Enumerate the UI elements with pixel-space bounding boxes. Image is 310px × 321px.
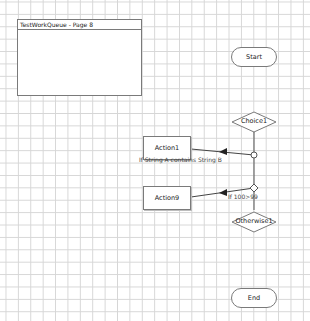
otherwise-node-label: Otherwise1: [229, 217, 279, 225]
diagram-canvas[interactable]: TestWorkQueue - Page 8 Start Choice1 Oth…: [0, 0, 310, 321]
branch-connector-dot[interactable]: [251, 152, 257, 158]
edge-label-action9: If 100>99: [228, 193, 258, 200]
action9-node[interactable]: Action9: [143, 186, 191, 210]
choice-node-label: Choice1: [234, 117, 274, 125]
end-node[interactable]: End: [231, 288, 277, 308]
branch-connector-diamond[interactable]: [250, 184, 258, 192]
arrow-head-icon: [219, 148, 227, 155]
edge-label-action1: If String A contains String B: [139, 156, 222, 163]
arrow-head-icon: [219, 189, 227, 196]
